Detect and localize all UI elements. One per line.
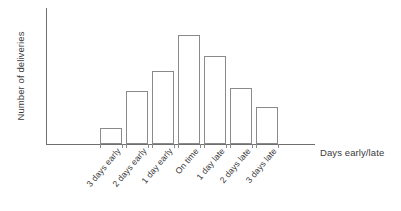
bar <box>178 35 200 144</box>
plot-area <box>46 8 315 144</box>
bar <box>204 56 226 144</box>
bar <box>230 88 252 144</box>
y-axis-title: Number of deliveries <box>14 8 28 144</box>
x-axis-tick-label: 1 day early <box>167 146 175 153</box>
x-axis-title: Days early/late <box>320 146 384 159</box>
bar <box>126 91 148 144</box>
bars-group <box>46 8 315 144</box>
bar <box>256 107 278 144</box>
bar <box>100 128 122 144</box>
bar-chart-figure: Number of deliveries 3 days early2 days … <box>0 0 401 211</box>
x-axis-tick-label: 2 days late <box>245 146 253 153</box>
x-axis-tick-label: 1 day late <box>219 146 227 153</box>
bar <box>152 71 174 144</box>
x-axis-tick-label: 2 days early <box>141 146 149 153</box>
x-axis-tick-label: On time <box>193 146 201 153</box>
x-axis-category-labels: 3 days early2 days early1 day earlyOn ti… <box>46 146 315 206</box>
x-axis-tick-label: 3 days late <box>271 146 279 153</box>
x-axis-tick-label: 3 days early <box>115 146 123 153</box>
